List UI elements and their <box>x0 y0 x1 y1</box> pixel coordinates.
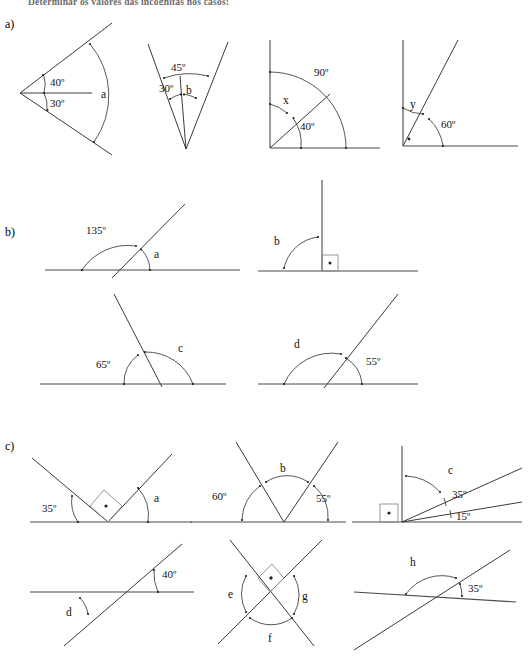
figure-c6: h 35º <box>352 536 529 656</box>
figure-b4: d 55º <box>258 292 488 392</box>
right-angle-dot-c5 <box>269 576 272 579</box>
figure-c4: 40º d <box>18 536 198 656</box>
right-angle-dot-b2 <box>329 262 332 265</box>
label-c3-upper: 35º <box>452 488 467 500</box>
figure-a1: 40º 30º a <box>14 20 144 160</box>
right-angle-dot-a4 <box>408 138 411 141</box>
figure-c2: 60º b 55º <box>190 440 350 530</box>
label-c5-bottom: f <box>268 632 272 644</box>
label-a2-unknown: b <box>186 84 192 96</box>
figure-c5: e g f <box>196 534 346 658</box>
label-b1-unknown: a <box>154 248 159 260</box>
label-c5-right: g <box>302 590 308 603</box>
label-a2-outer: 45º <box>171 61 186 73</box>
label-c2-unknown: b <box>280 462 286 474</box>
label-c4-known: 40º <box>162 568 177 580</box>
label-b3-unknown: c <box>178 342 183 354</box>
section-label-c: c) <box>5 439 14 454</box>
figure-b3: 65º c <box>36 292 256 392</box>
figure-a2: 45º 30º b <box>140 32 250 157</box>
figure-a3: 90º x 40º <box>262 32 384 157</box>
label-c1-known: 35º <box>42 502 57 514</box>
figure-b1: 135º a <box>40 198 260 278</box>
right-angle-dot-c3 <box>387 511 390 514</box>
figure-a4: y 60º <box>396 32 524 157</box>
label-a4-unknown: y <box>410 98 416 111</box>
label-c4-unknown: d <box>66 606 72 618</box>
label-b3-known: 65º <box>96 358 111 370</box>
label-c6-known: 35º <box>468 582 483 594</box>
label-a3-unknown: x <box>283 94 289 106</box>
section-label-b: b) <box>5 225 15 240</box>
label-c3-lower: 15º <box>456 510 471 522</box>
label-a4-known: 60º <box>441 118 456 130</box>
label-a1-upper: 40º <box>50 76 65 88</box>
worksheet-page: Determinar os valores das incógnitas nos… <box>0 0 529 661</box>
label-a3-total: 90º <box>314 66 329 78</box>
label-b4-unknown: d <box>294 338 300 350</box>
label-c6-unknown: h <box>410 556 416 568</box>
label-c3-unknown: c <box>448 464 453 476</box>
figure-c1: 35º a <box>24 440 196 530</box>
label-a1-unknown: a <box>101 88 106 100</box>
label-b4-known: 55º <box>366 355 381 367</box>
figure-c3: c 35º 15º <box>352 440 528 530</box>
label-a1-lower: 30º <box>50 97 65 109</box>
label-c2-left: 60º <box>212 490 227 502</box>
label-a2-inner: 30º <box>159 82 174 94</box>
label-c1-unknown: a <box>154 492 159 504</box>
right-angle-dot-c1 <box>104 504 107 507</box>
label-a3-known: 40º <box>300 120 315 132</box>
label-b2-unknown: b <box>274 235 280 247</box>
label-b1-known: 135º <box>86 224 107 236</box>
section-label-a: a) <box>5 17 14 32</box>
worksheet-header: Determinar os valores das incógnitas nos… <box>28 0 229 5</box>
label-c5-left: e <box>228 588 233 600</box>
label-c2-right: 55º <box>316 492 331 504</box>
figure-b2: b <box>258 175 458 280</box>
